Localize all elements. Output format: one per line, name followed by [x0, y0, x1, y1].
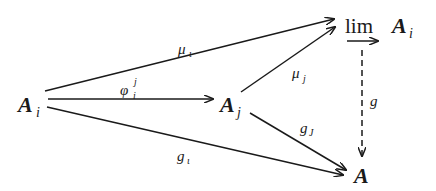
svg-text:A: A — [16, 92, 33, 117]
svg-text:J: J — [309, 127, 314, 138]
commutative-diagram: A i A j lim A i A μ ι φ i j g ι μ j g J — [0, 0, 436, 191]
edge-g-dashed: g — [362, 50, 378, 156]
svg-text:φ: φ — [120, 82, 128, 98]
svg-text:ι: ι — [189, 48, 192, 59]
svg-text:j: j — [235, 105, 241, 120]
svg-text:g: g — [300, 120, 308, 136]
svg-text:ι: ι — [187, 155, 190, 166]
svg-text:μ: μ — [291, 65, 300, 81]
svg-text:j: j — [132, 76, 137, 87]
svg-text:j: j — [301, 73, 306, 84]
node-a-j: A j — [218, 92, 241, 120]
svg-text:A: A — [218, 92, 235, 117]
edge-mu-j: μ j — [241, 27, 335, 92]
svg-text:μ: μ — [177, 41, 186, 57]
node-a: A — [352, 163, 369, 188]
svg-text:i: i — [36, 105, 40, 120]
edge-g-j: g J — [250, 113, 346, 170]
svg-text:i: i — [133, 90, 136, 101]
svg-text:i: i — [409, 26, 413, 41]
edge-mu-i: μ ι — [45, 19, 334, 91]
svg-text:g: g — [370, 93, 378, 109]
node-direct-limit: lim A i — [345, 13, 413, 41]
svg-text:A: A — [390, 13, 407, 38]
node-a-i: A i — [16, 92, 40, 120]
svg-text:lim: lim — [345, 14, 373, 38]
svg-text:A: A — [352, 163, 369, 188]
edge-phi-i-j: φ i j — [48, 76, 213, 101]
svg-text:g: g — [177, 148, 185, 164]
